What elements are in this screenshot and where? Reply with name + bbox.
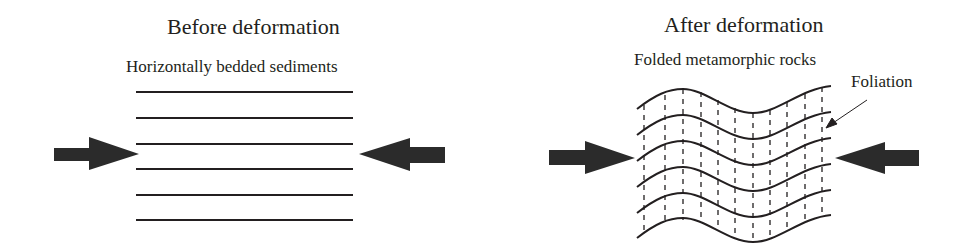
foliation-pointer-icon (826, 100, 867, 128)
left-compression-arrow-icon (54, 137, 139, 170)
deformation-diagram: Before deformation Horizontally bedded s… (0, 0, 968, 250)
left-compression-arrow-icon-after (549, 141, 635, 174)
horizontal-beds (136, 92, 353, 220)
folded-layers (637, 86, 831, 242)
right-compression-arrow-icon (359, 138, 445, 171)
right-compression-arrow-icon-after (835, 142, 919, 174)
diagram-graphics (0, 0, 968, 250)
